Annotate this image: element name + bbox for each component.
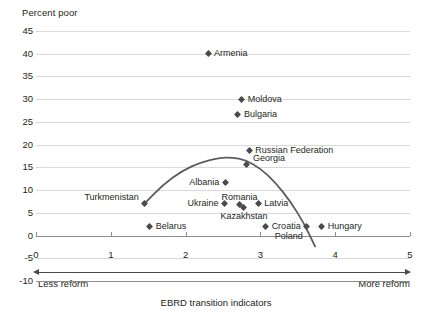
data-label-turkmenistan: Turkmenistan	[84, 193, 138, 202]
data-label-poland: Poland	[275, 232, 303, 241]
data-label-bulgaria: Bulgaria	[244, 110, 277, 119]
data-label-moldova: Moldova	[248, 95, 282, 104]
chart-container: Percent poor 454035302520151050-5-10 012…	[0, 0, 432, 317]
data-label-kazakhstan: Kazakhstan	[220, 212, 267, 221]
data-label-latvia: Latvia	[264, 199, 288, 208]
data-label-belarus: Belarus	[156, 222, 187, 231]
data-label-albania: Albania	[189, 178, 219, 187]
data-label-armenia: Armenia	[214, 49, 248, 58]
data-label-hungary: Hungary	[328, 222, 362, 231]
data-label-croatia: Croatia	[272, 222, 301, 231]
data-label-georgia: Georgia	[253, 154, 285, 163]
data-label-romania: Romania	[221, 193, 257, 202]
data-label-ukraine: Ukraine	[187, 199, 218, 208]
